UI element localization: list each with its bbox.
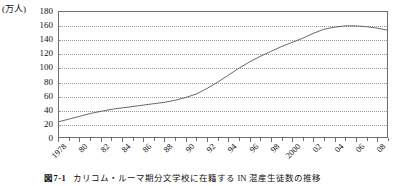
x-axis-tick-label: 06 xyxy=(354,142,366,154)
x-axis-tick-mark xyxy=(175,138,176,141)
x-axis-tick-label: 96 xyxy=(248,142,260,154)
y-axis-tick-label: 180 xyxy=(40,7,54,16)
y-axis-tick-label: 80 xyxy=(44,77,53,86)
x-axis-tick-label: 92 xyxy=(205,142,217,154)
y-axis-tick-label: 120 xyxy=(40,49,54,58)
x-axis-tick-mark xyxy=(260,138,261,141)
x-axis-tick-label: 90 xyxy=(184,142,196,154)
x-axis-tick-mark xyxy=(90,138,91,141)
x-axis-tick-mark xyxy=(239,138,240,141)
x-axis-tick-mark xyxy=(388,138,389,141)
plot-area xyxy=(58,11,388,138)
x-axis-tick-label: 94 xyxy=(226,142,238,154)
line-series xyxy=(59,12,387,137)
y-axis-tick-label: 60 xyxy=(44,91,53,100)
y-axis-tick-label: 160 xyxy=(40,21,54,30)
figure-caption: 図7-1カリコム・ルーマ期分文学校に在籍する IN 混産生徒数の推移 xyxy=(44,173,396,184)
figure-caption-text: カリコム・ルーマ期分文学校に在籍する IN 混産生徒数の推移 xyxy=(73,173,320,183)
y-axis-tick-labels: 180160140120100806040200 xyxy=(0,0,56,186)
x-axis-tick-mark xyxy=(345,138,346,141)
y-axis-tick-label: 0 xyxy=(49,134,54,143)
y-axis-tick-label: 100 xyxy=(40,63,54,72)
figure-container: (万人) 180160140120100806040200 1978808284… xyxy=(0,0,398,186)
x-axis-tick-mark xyxy=(303,138,304,141)
y-axis-tick-label: 40 xyxy=(44,105,53,114)
x-axis-tick-label: 80 xyxy=(77,142,89,154)
x-axis-tick-label: 04 xyxy=(333,142,345,154)
x-axis-tick-mark xyxy=(69,138,70,141)
x-axis-tick-label: 84 xyxy=(120,142,132,154)
x-axis-tick-mark xyxy=(154,138,155,141)
x-axis-tick-mark xyxy=(324,138,325,141)
x-axis-tick-label: 08 xyxy=(375,142,387,154)
series-polyline xyxy=(59,26,387,122)
x-axis-tick-label: 82 xyxy=(99,142,111,154)
x-axis-tick-label: 2000 xyxy=(284,142,302,160)
x-axis-tick-label: 98 xyxy=(269,142,281,154)
figure-number: 図7-1 xyxy=(44,173,66,183)
x-axis-tick-mark xyxy=(218,138,219,141)
x-axis-tick-mark xyxy=(111,138,112,141)
x-axis-tick-mark xyxy=(196,138,197,141)
x-axis-tick-label: 02 xyxy=(311,142,323,154)
x-axis-tick-label: 88 xyxy=(162,142,174,154)
x-axis-tick-mark xyxy=(282,138,283,141)
y-axis-tick-label: 140 xyxy=(40,35,54,44)
x-axis-tick-mark xyxy=(133,138,134,141)
y-axis-tick-label: 20 xyxy=(44,119,53,128)
x-axis-tick-labels: 197880828486889092949698200002040608 xyxy=(58,142,398,168)
x-axis-tick-label: 86 xyxy=(141,142,153,154)
x-axis-tick-mark xyxy=(367,138,368,141)
